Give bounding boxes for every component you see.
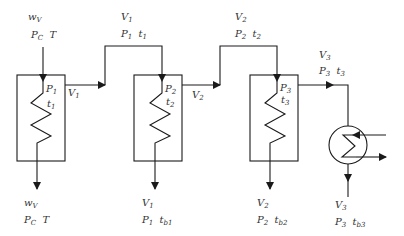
condenser-circle	[329, 126, 367, 164]
liquid-1-flow: V1	[142, 198, 154, 210]
effect-2-pressure: P2	[165, 84, 176, 96]
effect-1-vessel	[17, 75, 65, 161]
condensate-3-flow: V3	[335, 200, 347, 212]
condenser-coil	[342, 135, 356, 157]
vapor-1-flow: V1	[121, 12, 133, 24]
feed-flow-label: wV	[28, 12, 42, 24]
effect-3-temp: t3	[281, 95, 290, 107]
vapor-2-line-2	[220, 46, 277, 85]
vapor-3-state: P3 t3	[319, 66, 345, 78]
liquid-2-state: P2 tb2	[257, 215, 288, 227]
effect-2-temp: t2	[166, 97, 175, 109]
vapor-3-flow: V3	[319, 50, 331, 62]
vapor-2-flow: V2	[235, 12, 247, 24]
condensate-1-flow: wV	[24, 198, 38, 210]
effect-2-vapor-label: V2	[192, 90, 204, 102]
vapor-2-state: P2 t2	[235, 29, 261, 41]
effect-1-pressure: P1	[46, 84, 57, 96]
effect-1-vapor-label: V1	[68, 88, 80, 100]
effect-1-temp: t1	[47, 99, 56, 111]
feed-pressure-temp-label: PC T	[31, 30, 56, 42]
condensate-3-state: P3 tb3	[335, 217, 366, 229]
vapor-3-line-2	[333, 85, 348, 126]
condensate-1-state: PC T	[24, 215, 49, 227]
liquid-2-flow: V2	[257, 198, 269, 210]
vapor-1-state: P1 t1	[121, 29, 147, 41]
liquid-1-state: P1 tb1	[142, 215, 173, 227]
